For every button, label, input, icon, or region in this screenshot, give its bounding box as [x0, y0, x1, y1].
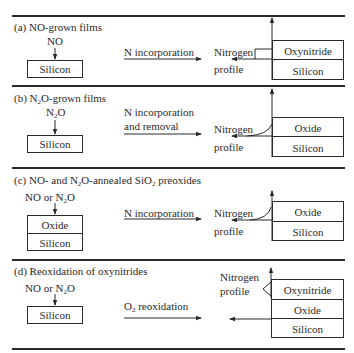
nitrogen-profile-curve [247, 124, 272, 136]
nitrogen-profile-curve [250, 207, 271, 220]
nitrogen-profile-peak [263, 282, 271, 296]
arrows-overlay [0, 0, 354, 353]
nitrogen-profile-step [255, 49, 272, 59]
